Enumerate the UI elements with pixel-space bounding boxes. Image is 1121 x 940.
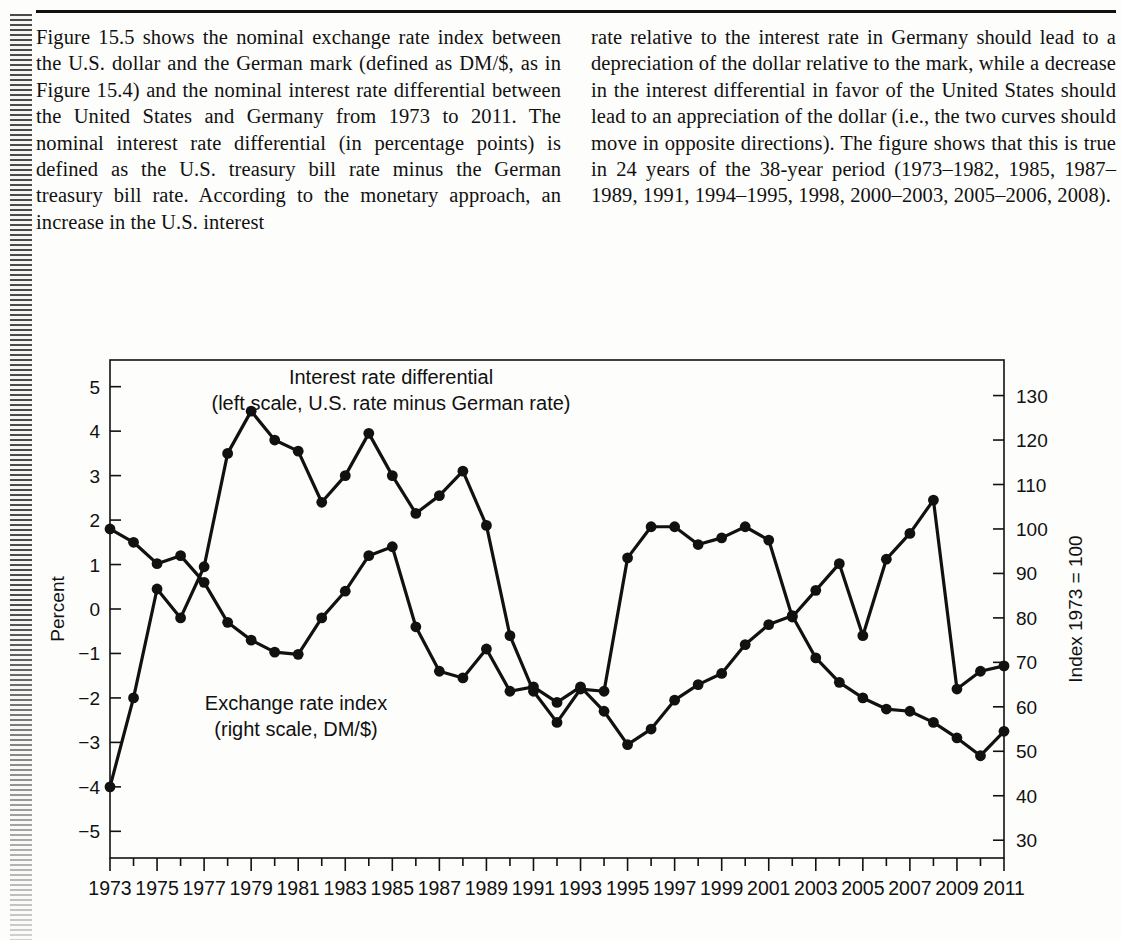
series-point-1	[387, 470, 398, 481]
series-point-1	[810, 585, 821, 596]
x-axis-tick-label: 1985	[371, 877, 415, 899]
y2-axis-title: Index 1973 = 100	[1065, 535, 1086, 682]
series-point-1	[693, 539, 704, 550]
x-axis-tick-label: 2007	[888, 877, 931, 899]
exchange-rate-annotation-line2: (right scale, DM/$)	[214, 718, 377, 740]
series-point-2	[316, 612, 327, 623]
binding-fade-overlay	[10, 600, 32, 940]
y-axis-tick-label: 4	[89, 421, 100, 442]
series-point-1	[552, 717, 563, 728]
series-point-1	[457, 466, 468, 477]
y2-axis-tick-label: 70	[1016, 652, 1037, 673]
series-point-2	[528, 681, 539, 692]
y-axis-tick-label: −4	[78, 777, 100, 798]
series-point-2	[199, 577, 210, 588]
series-point-2	[999, 726, 1010, 737]
series-point-1	[999, 661, 1010, 672]
series-point-2	[693, 679, 704, 690]
x-axis-tick-label: 1979	[229, 877, 272, 899]
series-point-2	[834, 677, 845, 688]
series-point-2	[881, 704, 892, 715]
x-axis-tick-label: 2003	[794, 877, 837, 899]
series-point-2	[434, 666, 445, 677]
y-axis-tick-label: −2	[78, 688, 100, 709]
series-point-1	[316, 497, 327, 508]
exchange-rate-annotation-line1: Exchange rate index	[205, 692, 387, 714]
series-point-1	[269, 435, 280, 446]
series-point-1	[199, 561, 210, 572]
series-point-1	[857, 630, 868, 641]
series-point-1	[904, 528, 915, 539]
y2-axis-tick-label: 110	[1016, 475, 1046, 496]
x-axis-tick-label: 1981	[277, 877, 320, 899]
series-point-1	[952, 684, 963, 695]
series-point-2	[387, 541, 398, 552]
y2-axis-tick-label: 50	[1016, 741, 1037, 762]
y-axis-tick-label: 3	[89, 466, 100, 487]
page-top-rule	[36, 10, 1116, 13]
series-point-2	[904, 706, 915, 717]
series-point-1	[175, 612, 186, 623]
series-point-2	[975, 750, 986, 761]
y2-axis-tick-label: 90	[1016, 563, 1037, 584]
series-point-1	[834, 558, 845, 569]
x-axis-tick-label: 1997	[653, 877, 696, 899]
series-point-1	[505, 630, 516, 641]
series-point-2	[128, 537, 139, 548]
x-axis-tick-label: 1977	[182, 877, 225, 899]
left-text-column: Figure 15.5 shows the nominal exchange r…	[36, 24, 561, 294]
series-point-2	[787, 610, 798, 621]
y-axis-tick-label: 0	[89, 599, 100, 620]
y-axis-tick-label: −5	[78, 821, 100, 842]
series-point-1	[128, 693, 139, 704]
series-point-1	[975, 666, 986, 677]
y2-axis-tick-label: 40	[1016, 786, 1037, 807]
series-point-1	[152, 584, 163, 595]
y2-axis-tick-label: 30	[1016, 830, 1037, 851]
x-axis-tick-label: 2009	[935, 877, 978, 899]
x-axis-tick-label: 1999	[700, 877, 743, 899]
y2-axis-tick-label: 130	[1016, 386, 1048, 407]
series-point-2	[105, 524, 116, 535]
y-axis-tick-label: −3	[78, 732, 100, 753]
series-point-1	[716, 532, 727, 543]
series-point-2	[763, 619, 774, 630]
right-text-column: rate relative to the interest rate in Ge…	[591, 24, 1116, 294]
interest-differential-annotation-line1: Interest rate differential	[289, 366, 493, 388]
x-axis-tick-label: 1983	[324, 877, 367, 899]
series-point-2	[952, 733, 963, 744]
y-axis-tick-label: 2	[89, 510, 100, 531]
series-point-1	[599, 686, 610, 697]
series-point-2	[857, 693, 868, 704]
series-point-1	[434, 490, 445, 501]
series-point-2	[481, 644, 492, 655]
interest-differential-annotation-line2: (left scale, U.S. rate minus German rate…	[211, 392, 570, 414]
series-point-1	[410, 508, 421, 519]
series-point-1	[881, 554, 892, 565]
series-point-1	[669, 521, 680, 532]
series-point-2	[222, 617, 233, 628]
series-point-1	[928, 495, 939, 506]
x-axis-tick-label: 1991	[512, 877, 555, 899]
series-point-2	[175, 550, 186, 561]
series-point-1	[646, 521, 657, 532]
series-point-2	[340, 586, 351, 597]
y-axis-tick-label: 1	[89, 555, 100, 576]
series-point-2	[740, 639, 751, 650]
series-point-2	[669, 695, 680, 706]
y-axis-tick-label: −1	[78, 643, 100, 664]
series-point-2	[363, 550, 374, 561]
series-point-2	[457, 673, 468, 684]
x-axis-tick-label: 1987	[418, 877, 461, 899]
y2-axis-tick-label: 80	[1016, 608, 1037, 629]
x-axis-tick-label: 1993	[559, 877, 602, 899]
series-point-2	[810, 653, 821, 664]
series-point-2	[269, 647, 280, 658]
series-point-2	[293, 649, 304, 660]
x-axis-tick-label: 1995	[606, 877, 650, 899]
exchange-rate-interest-differential-chart: 543210−1−2−3−4−5Percent13012011010090807…	[46, 300, 1106, 930]
series-point-2	[716, 668, 727, 679]
series-point-2	[152, 558, 163, 569]
series-point-1	[481, 520, 492, 531]
x-axis-tick-label: 1989	[465, 877, 508, 899]
